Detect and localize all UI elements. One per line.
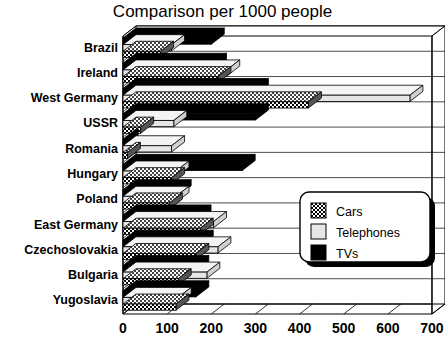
x-tick-label-500: 500	[319, 320, 369, 336]
x-tick-label-0: 0	[98, 320, 148, 336]
x-tick-label-400: 400	[275, 320, 325, 336]
bar-cars-yugoslavia	[123, 294, 189, 310]
chart-plot-area	[0, 0, 445, 345]
chart-legend: CarsTelephonesTVs	[299, 191, 439, 271]
chart-container: Comparison per 1000 people BrazilIreland…	[0, 0, 445, 345]
legend-label-cars: Cars	[336, 205, 362, 219]
legend-label-telephones: Telephones	[336, 226, 400, 240]
legend-label-tvs: TVs	[336, 247, 358, 261]
x-tick-label-300: 300	[230, 320, 280, 336]
x-tick-label-200: 200	[186, 320, 236, 336]
legend-swatch-telephones	[311, 224, 326, 239]
x-tick-label-700: 700	[407, 320, 445, 336]
x-tick-label-600: 600	[363, 320, 413, 336]
x-tick-label-100: 100	[142, 320, 192, 336]
legend-swatch-cars	[311, 203, 326, 218]
legend-swatch-tvs	[311, 245, 326, 260]
